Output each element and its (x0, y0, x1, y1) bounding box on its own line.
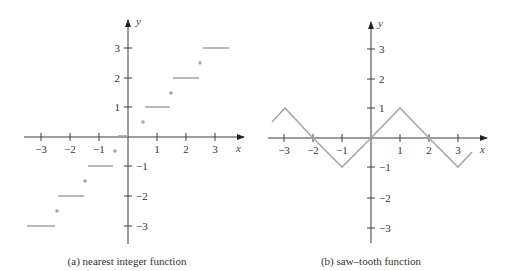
y-tick-label: −3 (379, 222, 391, 234)
x-tick-label: 2 (183, 143, 189, 155)
x-tick-label: −1 (93, 143, 105, 155)
x-axis-label: x (479, 143, 485, 155)
x-tick-label: 1 (397, 144, 403, 156)
x-tick-label: 2 (426, 144, 432, 156)
x-tick-label: 3 (455, 144, 461, 156)
x-tick-label: −2 (64, 143, 76, 155)
y-tick-label: 2 (379, 73, 385, 85)
y-tick-label: 3 (115, 42, 121, 54)
y-tick-label: −1 (136, 160, 148, 172)
y-tick-label: −1 (379, 161, 391, 173)
y-tick-label: −2 (379, 192, 391, 204)
panel-a-nearest-integer: −3 −2 −1 1 2 3 x 3 2 1 −1 −2 −3 y (24, 15, 244, 268)
y-axis-label: y (377, 17, 383, 29)
y-tick-label: 2 (115, 72, 121, 84)
y-tick-label: −2 (136, 190, 148, 202)
panel-b-saw-tooth: −3 −2 −1 1 2 3 x 3 2 1 −1 −2 −3 y (b) sa… (268, 17, 487, 268)
x-axis-label: x (235, 142, 241, 154)
figure: −3 −2 −1 1 2 3 x 3 2 1 −1 −2 −3 y (0, 0, 506, 271)
y-tick-label: −3 (136, 220, 148, 232)
y-tick-label: 1 (115, 101, 121, 113)
x-tick-label: −2 (307, 144, 319, 156)
x-tick-label: 3 (212, 143, 218, 155)
y-tick-label: 1 (379, 102, 385, 114)
caption-a: (a) nearest integer function (68, 255, 187, 268)
x-tick-label: −3 (35, 143, 47, 155)
caption-b: (b) saw–tooth function (321, 255, 422, 268)
x-tick-label: −1 (336, 144, 348, 156)
x-tick-label: −3 (278, 144, 290, 156)
y-axis-label: y (135, 15, 141, 27)
y-tick-label: 3 (379, 43, 385, 55)
x-tick-label: 1 (154, 143, 160, 155)
